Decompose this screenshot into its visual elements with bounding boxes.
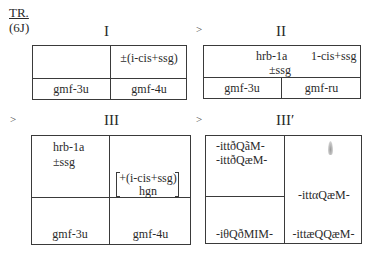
panel-iii-prime-hdivider bbox=[205, 196, 285, 197]
panel-i-bottom-right: gmf-4u bbox=[111, 83, 187, 96]
panel-iii-prime-right-mid: -ittαQæM- bbox=[298, 189, 350, 202]
panel-ii-gene-hrb: hrb-1a bbox=[256, 50, 287, 63]
figure-label: TR. bbox=[9, 6, 29, 20]
panel-iii-bracket-line2: hgn bbox=[118, 185, 178, 198]
panel-iii-prime-top-left-1: -ittðQãM- bbox=[216, 140, 265, 153]
panel-i-bottom-left: gmf-3u bbox=[32, 83, 110, 96]
panel-ii-bottom-left: gmf-3u bbox=[203, 82, 281, 95]
panel-iii-bottom-right: gmf-4u bbox=[110, 228, 191, 241]
arrow-gt-ii: > bbox=[196, 23, 202, 35]
panel-iii-bottom-left: gmf-3u bbox=[31, 228, 109, 241]
panel-iii-prime-bottom-left: -iθQðMIM- bbox=[205, 228, 284, 241]
panel-iii-prime-bottom-right: -ittæQQæM- bbox=[285, 228, 362, 241]
panel-iii-prime-top-left-2: -ittðQæM- bbox=[216, 154, 267, 167]
flame-icon bbox=[328, 141, 333, 155]
panel-ii-bottom-right: gmf-ru bbox=[282, 82, 361, 95]
arrow-gt-iii: > bbox=[10, 113, 16, 125]
panel-iii-title: III bbox=[104, 113, 119, 128]
panel-iii-gene-ssg: ±ssg bbox=[53, 156, 75, 169]
figure-code: (6J) bbox=[9, 21, 29, 35]
panel-ii-hdivider bbox=[203, 77, 361, 78]
arrow-gt-iii-prime: > bbox=[196, 113, 202, 125]
panel-ii-gene-ssg: ±ssg bbox=[269, 64, 291, 77]
panel-ii-title: II bbox=[276, 24, 286, 39]
panel-i-title: I bbox=[104, 24, 109, 39]
panel-ii-gene-cis: 1-cis+ssg bbox=[311, 50, 356, 63]
panel-iii-prime-title: III′ bbox=[276, 113, 294, 128]
panel-i-top-right: ±(i-cis+ssg) bbox=[111, 52, 187, 65]
panel-iii-gene-hrb: hrb-1a bbox=[53, 141, 84, 154]
